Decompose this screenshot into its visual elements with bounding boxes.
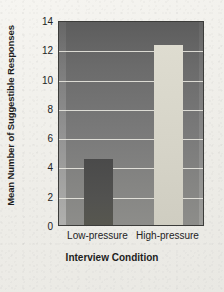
y-axis-tick-label: 8 [47,103,53,114]
plot-right-highlight-band [199,22,203,225]
y-axis-tick-label: 6 [47,133,53,144]
bar-high-pressure [154,45,183,225]
y-axis-tick-label: 0 [47,221,53,232]
x-axis-tick-labels: Low-pressureHigh-pressure [58,230,204,246]
x-axis-tick-label: Low-pressure [67,230,128,241]
y-axis-tick-label: 14 [42,16,53,27]
plot-area [58,21,204,226]
y-axis-tick-label: 12 [42,45,53,56]
y-axis-tick-label: 4 [47,162,53,173]
x-axis-tick-label: High-pressure [136,230,199,241]
x-axis-title: Interview Condition [0,252,224,263]
y-axis-tick-labels: 02468101214 [22,0,56,292]
y-axis-title-text: Mean Number of Suggestible Responses [5,25,16,206]
plot-left-highlight-band [59,22,66,225]
y-axis-tick-label: 10 [42,74,53,85]
y-axis-tick-label: 2 [47,191,53,202]
chart-figure: Mean Number of Suggestible Responses 024… [0,0,224,292]
bar-low-pressure [84,159,113,225]
y-axis-title: Mean Number of Suggestible Responses [0,0,20,230]
